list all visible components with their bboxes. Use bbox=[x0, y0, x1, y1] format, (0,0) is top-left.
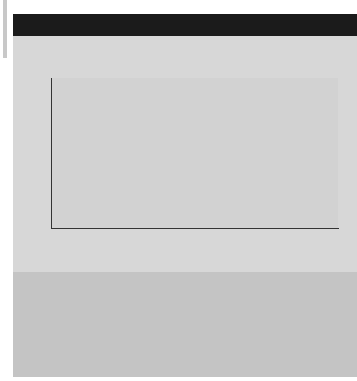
left-margin-rule bbox=[3, 0, 7, 58]
figure-title-bar bbox=[13, 14, 357, 36]
figure-panel bbox=[13, 14, 357, 377]
figure-page bbox=[0, 0, 357, 381]
chart bbox=[13, 60, 357, 244]
data-gap-section bbox=[13, 272, 357, 377]
series-line bbox=[13, 60, 357, 244]
